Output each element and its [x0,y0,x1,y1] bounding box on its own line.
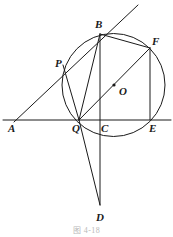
point-label-c: C [101,123,108,134]
point-label-a: A [8,123,15,134]
segment-B-Q [79,34,100,120]
point-label-f: F [152,36,159,47]
point-dots-group [112,83,115,86]
point-label-b: B [95,19,102,30]
point-label-d: D [96,212,104,223]
point-label-q: Q [72,123,80,134]
segment-P-Q [63,65,79,120]
chord-B-F [100,34,150,48]
geometry-figure: APBFOQCED 图 4-18 [0,0,173,237]
segments-group [3,5,171,205]
segment-Q-D [79,120,100,205]
point-dot-o [112,83,115,86]
point-label-e: E [149,123,156,134]
point-label-p: P [55,58,62,69]
figure-caption: 图 4-18 [0,224,173,235]
point-label-o: O [119,86,127,97]
ray-A-through-P-B [14,5,138,122]
figure-canvas [0,0,173,237]
